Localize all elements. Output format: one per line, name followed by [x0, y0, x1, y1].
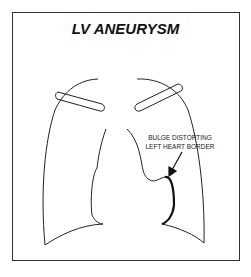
annotation-label: BULGE DISTORTING LEFT HEART BORDER: [140, 133, 220, 151]
annotation-line-2: LEFT HEART BORDER: [140, 142, 220, 151]
mediastinum-right-border: [91, 129, 106, 224]
arrow-icon: [169, 152, 182, 176]
left-clavicle: [135, 84, 183, 111]
aneurysm-bulge: [162, 177, 174, 224]
right-clavicle: [56, 92, 105, 111]
annotation-line-1: BULGE DISTORTING: [140, 133, 220, 142]
